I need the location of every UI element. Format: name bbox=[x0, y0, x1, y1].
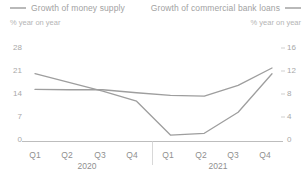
x-tick-2020-q2: Q2 bbox=[54, 151, 80, 160]
series-line-money-supply bbox=[35, 68, 272, 96]
x-tick-2021-q4: Q4 bbox=[252, 151, 278, 160]
x-tick-2020-q3: Q3 bbox=[87, 151, 113, 160]
x-tick-2021-q2: Q2 bbox=[188, 151, 214, 160]
plot-area bbox=[0, 0, 305, 171]
chart-container: Growth of money supply % year on year Gr… bbox=[0, 0, 305, 171]
x-group-label-2021: 2021 bbox=[188, 162, 248, 171]
series-line-bank-loans bbox=[35, 74, 272, 135]
x-tick-2021-q1: Q1 bbox=[155, 151, 181, 160]
x-tick-2020-q1: Q1 bbox=[22, 151, 48, 160]
x-tick-2020-q4: Q4 bbox=[119, 151, 145, 160]
x-tick-2021-q3: Q3 bbox=[220, 151, 246, 160]
x-group-label-2020: 2020 bbox=[57, 162, 117, 171]
